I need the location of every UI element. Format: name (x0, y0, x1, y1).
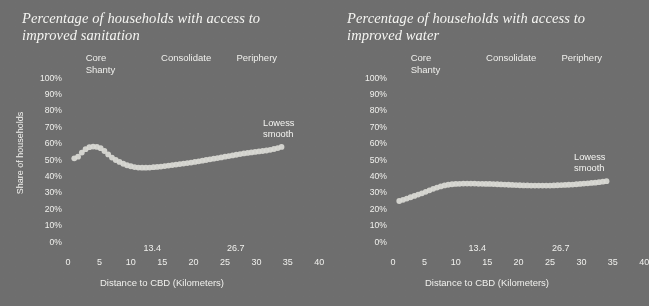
x-axis-tick-label: 10 (116, 257, 146, 267)
series-annotation-water: Lowess smooth (574, 152, 606, 174)
x-axis-tick-label: 0 (53, 257, 83, 267)
x-axis-tick-label: 35 (273, 257, 303, 267)
x-axis-tick-label: 15 (472, 257, 502, 267)
x-axis-boundary-label: 26.7 (219, 243, 253, 253)
x-axis-boundary-label: 26.7 (544, 243, 578, 253)
x-axis-tick-label: 15 (147, 257, 177, 267)
x-axis-tick-label: 30 (241, 257, 271, 267)
x-axis-tick-label: 25 (210, 257, 240, 267)
x-axis-tick-label: 5 (409, 257, 439, 267)
lowess-marker (279, 144, 285, 150)
chart-panel-sanitation: Percentage of households with access to … (0, 0, 324, 306)
x-axis-tick-label: 5 (84, 257, 114, 267)
plot-area-sanitation: 0%10%20%30%40%50%60%70%80%90%100% Share … (0, 0, 324, 306)
x-axis-tick-label: 30 (566, 257, 596, 267)
x-axis-tick-label: 20 (504, 257, 534, 267)
x-axis-boundary-label: 13.4 (460, 243, 494, 253)
x-axis-tick-label: 25 (535, 257, 565, 267)
plot-area-water: 0%10%20%30%40%50%60%70%80%90%100% Distan… (325, 0, 649, 306)
x-axis-tick-label: 40 (629, 257, 649, 267)
x-axis-tick-label: 10 (441, 257, 471, 267)
lowess-marker (604, 178, 610, 184)
chart-panel-water: Percentage of households with access to … (325, 0, 649, 306)
series-annotation-sanitation: Lowess smooth (263, 118, 295, 140)
x-axis-boundary-label: 13.4 (135, 243, 169, 253)
x-axis-tick-label: 20 (179, 257, 209, 267)
x-axis-tick-label: 35 (598, 257, 628, 267)
x-axis-tick-label: 0 (378, 257, 408, 267)
